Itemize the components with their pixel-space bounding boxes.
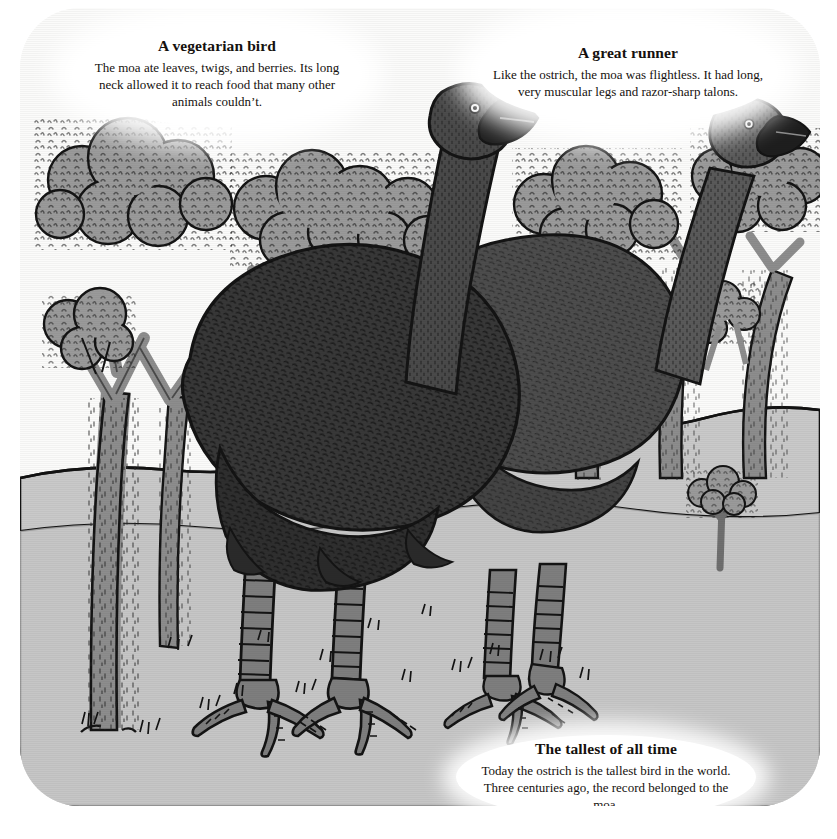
callout-text: A great runner Like the ostrich, the moa… bbox=[478, 44, 778, 100]
tree-canopy bbox=[32, 118, 232, 250]
callout-text: A vegetarian bird The moa ate leaves, tw… bbox=[72, 37, 362, 110]
callout-body: Like the ostrich, the moa was flightless… bbox=[492, 66, 764, 101]
illustration-page: A vegetarian bird The moa ate leaves, tw… bbox=[0, 0, 837, 839]
callout-great-runner: A great runner Like the ostrich, the moa… bbox=[478, 20, 778, 124]
illustration-artwork bbox=[20, 8, 820, 806]
callout-body: The moa ate leaves, twigs, and berries. … bbox=[86, 59, 348, 111]
callout-text: The tallest of all time Today the ostric… bbox=[456, 740, 756, 806]
callout-title: The tallest of all time bbox=[470, 740, 742, 759]
callout-vegetarian-bird: A vegetarian bird The moa ate leaves, tw… bbox=[72, 22, 362, 126]
callout-tallest-of-all-time: The tallest of all time Today the ostric… bbox=[456, 735, 756, 806]
callout-title: A vegetarian bird bbox=[86, 37, 348, 56]
moa-illustration: A vegetarian bird The moa ate leaves, tw… bbox=[20, 8, 820, 806]
callout-body: Today the ostrich is the tallest bird in… bbox=[470, 762, 742, 806]
callout-title: A great runner bbox=[492, 44, 764, 63]
